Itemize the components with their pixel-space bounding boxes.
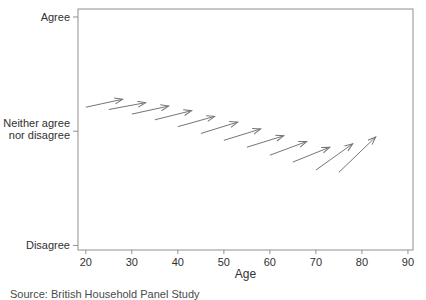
x-axis-title: Age [235,267,257,281]
x-tick-label: 40 [172,256,184,268]
plot-border [78,9,413,250]
x-tick-label: 60 [264,256,276,268]
y-tick-label: Neither agree [3,117,70,129]
source-caption: Source: British Household Panel Study [10,288,200,300]
x-axis-title-text: Age [235,267,257,281]
y-tick-label: nor disagree [9,129,70,141]
trajectory-arrow [293,147,330,162]
x-tick-label: 30 [126,256,138,268]
trajectory-arrow [155,111,192,120]
y-tick-label: Agree [41,11,70,23]
plot-frame [78,9,413,250]
x-tick-label: 70 [310,256,322,268]
trajectory-arrow [247,136,284,147]
trajectory-arrow [178,116,215,126]
trajectory-arrow [86,99,123,107]
trajectory-arrow [339,137,376,172]
x-tick-label: 50 [218,256,230,268]
x-tick-label: 90 [402,256,414,268]
trajectory-arrow [270,141,307,155]
trajectory-arrow [224,129,261,140]
x-axis: 2030405060708090 [80,250,414,268]
x-tick-label: 20 [80,256,92,268]
trajectory-arrow [316,144,353,170]
y-tick-label: Disagree [26,239,70,251]
trajectory-arrow [201,122,238,133]
trajectory-arrow [109,103,146,110]
y-axis: AgreeNeither agreenor disagreeDisagree [3,11,78,251]
x-tick-label: 80 [356,256,368,268]
arrows-layer [86,99,376,172]
trajectory-arrow [132,106,169,114]
